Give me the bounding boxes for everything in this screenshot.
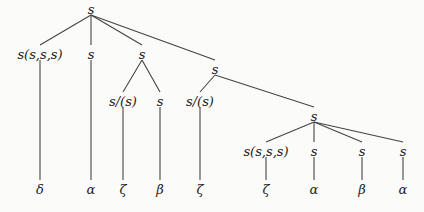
tree-leaf-node: ζ: [196, 182, 204, 197]
tree-edge: [314, 122, 403, 142]
tree-edge: [215, 75, 314, 107]
tree-node: s/(s): [186, 94, 214, 109]
tree-node: s: [359, 144, 366, 159]
tree-root-node: s: [88, 2, 95, 17]
tree-leaf-node: α: [87, 182, 96, 197]
syntax-tree-diagram: ss(s,s,s)ssss/(s)ss/(s)ss(s,s,s)sssδαζβζ…: [0, 0, 424, 212]
tree-edge: [142, 60, 160, 92]
tree-leaf-node: α: [399, 182, 408, 197]
tree-edge: [123, 60, 142, 92]
tree-node: s: [311, 144, 318, 159]
tree-leaf-node: δ: [36, 182, 44, 197]
tree-leaf-node: β: [357, 182, 366, 197]
tree-leaf-node: α: [310, 182, 319, 197]
tree-node: s(s,s,s): [17, 47, 62, 62]
tree-node: s: [212, 62, 219, 77]
tree-edge: [266, 122, 314, 142]
tree-leaf-node: β: [155, 182, 164, 197]
tree-edge: [91, 15, 142, 45]
tree-leaf-node: ζ: [119, 182, 127, 197]
tree-node: s/(s): [109, 94, 137, 109]
tree-edge: [314, 122, 362, 142]
tree-node: s: [139, 47, 146, 62]
tree-edge: [91, 15, 215, 60]
tree-node: s: [157, 94, 164, 109]
tree-leaf-node: ζ: [262, 182, 270, 197]
tree-node: s: [400, 144, 407, 159]
tree-node: s(s,s,s): [243, 144, 288, 159]
tree-edge: [40, 15, 91, 45]
tree-node: s: [88, 47, 95, 62]
tree-node: s: [311, 109, 318, 124]
tree-edge: [200, 75, 215, 92]
